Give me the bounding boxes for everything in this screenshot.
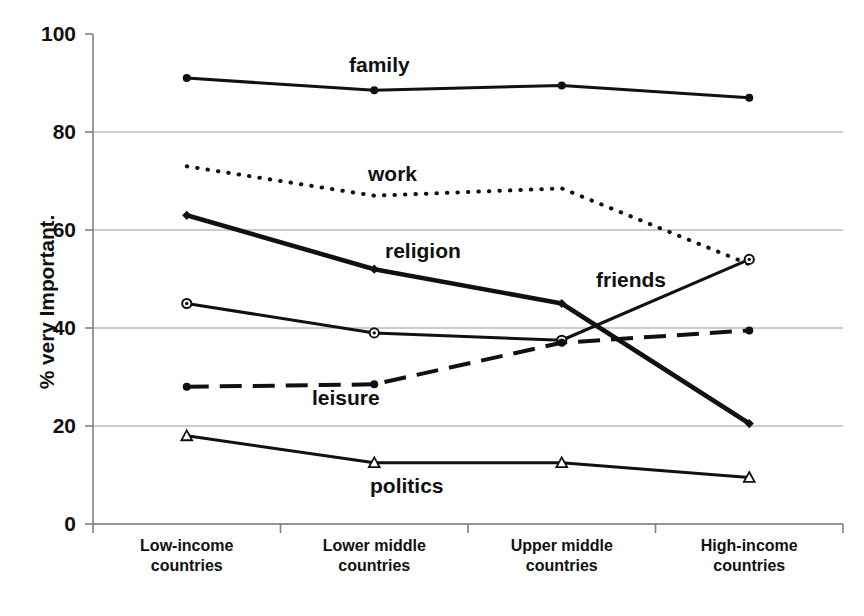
x-axis-tick-label-line: Low-income (93, 536, 281, 556)
series-politics (181, 430, 754, 481)
x-axis-tick-labels: Low-incomecountriesLower middlecountries… (93, 536, 843, 606)
x-axis-tick-label-line: Upper middle (468, 536, 656, 556)
x-axis-tick-label: Low-incomecountries (93, 536, 281, 606)
x-axis-tick-label-line: countries (468, 556, 656, 576)
data-point-marker (745, 326, 753, 334)
x-axis-tick-label-line: countries (656, 556, 844, 576)
x-axis-tick-label: Lower middlecountries (281, 536, 469, 606)
series-label-friends: friends (596, 269, 666, 290)
x-axis-tick-label: Upper middlecountries (468, 536, 656, 606)
data-point-marker-center (185, 302, 188, 305)
series-line (187, 215, 750, 423)
data-point-marker (183, 383, 191, 391)
data-point-marker (183, 74, 191, 82)
series-label-leisure: leisure (312, 387, 380, 408)
series-label-politics: politics (370, 475, 444, 496)
series-line (187, 78, 750, 98)
x-axis-tick-label-line: countries (93, 556, 281, 576)
x-axis-tick-label-line: countries (281, 556, 469, 576)
data-point-marker (370, 86, 378, 94)
data-point-marker (745, 94, 753, 102)
series-line (187, 330, 750, 386)
x-axis-tick-label-line: Lower middle (281, 536, 469, 556)
series-work (187, 166, 750, 264)
line-chart: % very Important. 100806040200 familywor… (0, 0, 864, 616)
series-friends (182, 255, 754, 345)
plot-area (0, 0, 864, 616)
series-label-religion: religion (385, 240, 461, 261)
data-point-marker-center (373, 331, 376, 334)
series-line (187, 436, 750, 478)
data-point-marker (558, 81, 566, 89)
data-point-marker-center (748, 258, 751, 261)
series-label-work: work (368, 163, 417, 184)
series-religion (182, 211, 754, 428)
series-label-family: family (349, 54, 410, 75)
x-axis-tick-label-line: High-income (656, 536, 844, 556)
series-family (183, 74, 754, 102)
data-point-marker (558, 339, 566, 347)
series-line (187, 166, 750, 264)
x-axis-tick-label: High-incomecountries (656, 536, 844, 606)
